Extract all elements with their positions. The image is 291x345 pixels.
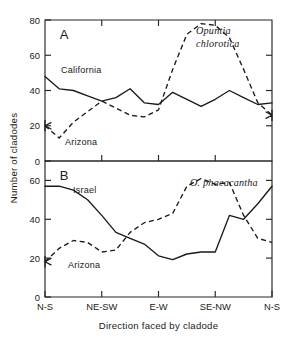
panel-a-y-ticks [45,20,51,161]
panel-b-y-ticks [45,180,51,297]
x-axis-tick-labels: N-S NE-SW E-W SE-NW N-S [37,301,280,312]
xtick-label-0: N-S [37,301,53,312]
cladode-orientation-figure: 80 60 40 20 0 A Opuntia chlorotica Calif… [0,0,291,345]
panel-b-label-israel: Israel [73,185,96,195]
panel-a-y-tick-labels: 80 60 40 20 0 [30,15,40,167]
panel-b-label-arizona: Arizona [68,260,101,270]
panel-a-series-california [45,76,272,106]
panel-a-label-california: California [61,65,102,75]
panel-a-ylabel-60: 60 [30,50,40,61]
panel-b-ylabel-40: 40 [30,214,40,225]
y-axis-title: Number of cladodes [8,113,19,203]
panel-b-ylabel-60: 60 [30,175,40,186]
xtick-label-1: NE-SW [86,301,117,312]
figure-container: 80 60 40 20 0 A Opuntia chlorotica Calif… [0,0,291,345]
xtick-label-4: N-S [264,301,280,312]
xtick-label-2: E-W [149,301,167,312]
panel-b-letter: B [60,168,69,183]
panel-a-letter: A [60,27,69,42]
panel-b-ylabel-20: 20 [30,253,40,264]
panel-a-arizona-end-arrow [266,110,272,120]
panel-a-ylabel-40: 40 [30,85,40,96]
panel-b: 60 40 20 0 B O. phaeacantha Israel Arizo… [30,155,272,303]
panel-a-ylabel-20: 20 [30,120,40,131]
panel-a: 80 60 40 20 0 A Opuntia chlorotica Calif… [30,15,272,167]
panel-a-ylabel-0: 0 [35,156,40,167]
panel-b-y-tick-labels: 60 40 20 0 [30,175,40,303]
panel-b-series-israel [45,186,272,260]
xtick-label-3: SE-NW [200,301,231,312]
panel-a-species-label-line2: chlorotica [196,38,240,49]
panel-a-label-arizona: Arizona [65,137,98,147]
panel-b-top-ticks [102,155,216,161]
x-axis-title: Direction faced by cladode [99,320,219,331]
panel-b-x-ticks [45,291,272,297]
panel-a-ylabel-80: 80 [30,15,40,26]
